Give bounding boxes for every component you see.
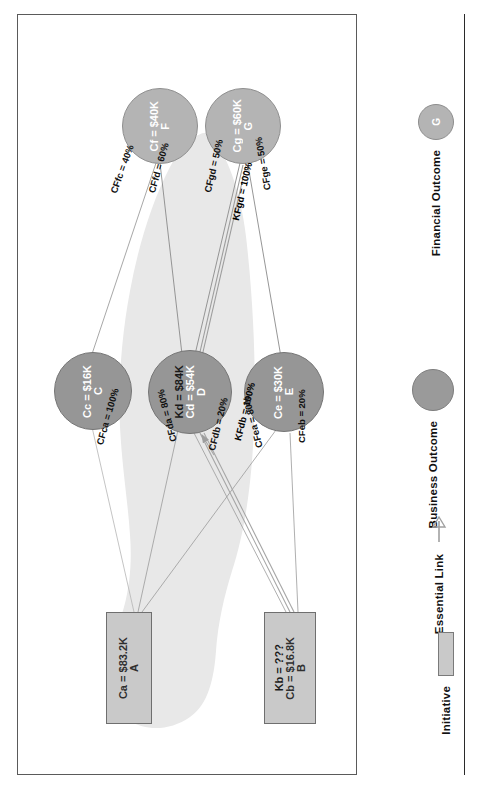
edge-C-A <box>92 427 134 612</box>
legend-financial-outcome-label: Financial Outcome <box>430 150 442 256</box>
node-F-name: F <box>160 123 171 130</box>
node-E-value: Ce = $30K <box>273 366 284 419</box>
edge-label-CFeb: CFeb = 20% <box>296 389 307 443</box>
diagram-frame: F Cf = $40K G Cg = $60K C Cc = $16K D Cd… <box>17 14 357 775</box>
legend-item-essential-link: Essential Link <box>424 514 454 634</box>
node-D-value: Cd = $54K <box>185 365 196 419</box>
node-B-name: B <box>296 664 307 672</box>
legend-financial-outcome-glyph-label: G <box>431 118 442 126</box>
edge-E-A <box>142 430 276 612</box>
node-E-name: E <box>284 388 295 395</box>
legend-initiative-label: Initiative <box>440 686 452 735</box>
node-A[interactable]: A Ca = $83.2K <box>106 612 152 724</box>
edge-G-D <box>193 163 240 363</box>
node-D-name: D <box>196 388 207 396</box>
legend-item-business-outcome: Business Outcome <box>412 369 454 528</box>
edge-D-B-essential-a <box>200 433 290 612</box>
node-B-value: Cb = $16.8K <box>285 637 296 700</box>
edge-E-B <box>290 433 298 612</box>
node-A-name: A <box>129 664 140 672</box>
node-D-k-value: Kd = $84K <box>174 365 185 419</box>
edge-F-C <box>90 163 156 360</box>
legend-business-outcome-circle-icon <box>412 369 454 411</box>
legend-initiative-rect-icon <box>438 632 454 676</box>
diagram-page: F Cf = $40K G Cg = $60K C Cc = $16K D Cd… <box>0 0 481 799</box>
edge-D-B-essential-b <box>204 433 294 612</box>
node-B-k-value: Kb = ??? <box>274 644 285 691</box>
node-A-value: Ca = $83.2K <box>118 637 129 699</box>
node-C-name: C <box>93 387 104 395</box>
legend-item-initiative: Initiative <box>438 632 454 735</box>
node-G-name: G <box>243 122 254 131</box>
edge-D-A <box>138 430 178 612</box>
legend-business-outcome-label: Business Outcome <box>427 421 439 528</box>
legend-divider <box>464 14 465 775</box>
edge-G-E <box>248 165 282 363</box>
node-C-value: Cc = $16K <box>82 365 93 418</box>
legend-financial-outcome-circle-icon: G <box>418 104 454 140</box>
legend-item-financial-outcome: G Financial Outcome <box>418 104 454 256</box>
node-B[interactable]: B Cb = $16.8K Kb = ??? <box>264 612 316 724</box>
legend: G Financial Outcome Business Outcome Ess… <box>376 14 466 775</box>
node-G-value: Cg = $60K <box>232 99 243 153</box>
legend-essential-link-arrow-icon <box>424 514 454 544</box>
edge-F-D <box>160 163 183 363</box>
legend-essential-link-label: Essential Link <box>433 554 445 634</box>
